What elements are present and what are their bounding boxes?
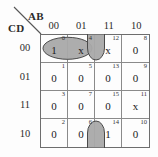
cell-index-0: 0 bbox=[62, 35, 65, 42]
kmap-grid: 0 1 4 x 12 x 8 0 1 0 5 0 13 0 9 0 bbox=[40, 34, 150, 148]
cell-value-15: 0 bbox=[95, 99, 121, 111]
kmap-cell-4[interactable]: 4 x bbox=[68, 35, 95, 63]
cell-index-4: 4 bbox=[89, 35, 92, 42]
row-header-10: 10 bbox=[13, 128, 37, 139]
row-header-11: 11 bbox=[13, 99, 37, 110]
cell-index-9: 9 bbox=[144, 63, 147, 70]
kmap-cell-0[interactable]: 0 1 bbox=[41, 35, 68, 63]
cell-index-7: 7 bbox=[89, 91, 92, 98]
cell-value-9: 0 bbox=[122, 71, 149, 83]
kmap-cell-14[interactable]: 14 1 bbox=[95, 119, 122, 147]
kmap-cell-11[interactable]: 11 x bbox=[122, 91, 149, 119]
kmap-cell-3[interactable]: 3 0 bbox=[41, 91, 68, 119]
cell-index-11: 11 bbox=[141, 91, 147, 98]
cell-index-8: 8 bbox=[144, 35, 147, 42]
row-header-01: 01 bbox=[13, 71, 37, 82]
kmap-cell-9[interactable]: 9 0 bbox=[122, 63, 149, 91]
col-header-00: 00 bbox=[40, 20, 68, 31]
cell-index-14: 14 bbox=[113, 119, 120, 126]
kmap-cell-7[interactable]: 7 0 bbox=[68, 91, 95, 119]
cell-index-2: 2 bbox=[62, 119, 65, 126]
cell-value-2: 0 bbox=[41, 128, 67, 140]
row-header-00: 00 bbox=[13, 42, 37, 53]
col-header-11: 11 bbox=[95, 20, 123, 31]
kmap-cell-13[interactable]: 13 0 bbox=[95, 63, 122, 91]
cell-index-12: 12 bbox=[113, 35, 120, 42]
cell-value-11: x bbox=[122, 99, 149, 111]
col-header-01: 01 bbox=[68, 20, 96, 31]
kmap-cell-10[interactable]: 10 0 bbox=[122, 119, 149, 147]
cell-value-8: 0 bbox=[122, 43, 149, 55]
kmap-cell-15[interactable]: 15 0 bbox=[95, 91, 122, 119]
cell-value-3: 0 bbox=[41, 99, 67, 111]
cell-value-0: 1 bbox=[41, 43, 67, 55]
cell-value-6: 0 bbox=[68, 128, 94, 140]
kmap-cell-1[interactable]: 1 0 bbox=[41, 63, 68, 91]
kmap-cell-6[interactable]: 6 0 bbox=[68, 119, 95, 147]
cell-index-5: 5 bbox=[89, 63, 92, 70]
kmap-cell-12[interactable]: 12 x bbox=[95, 35, 122, 63]
cell-index-15: 15 bbox=[113, 91, 120, 98]
cell-index-3: 3 bbox=[62, 91, 65, 98]
col-header-10: 10 bbox=[123, 20, 151, 31]
kmap-cell-2[interactable]: 2 0 bbox=[41, 119, 68, 147]
cell-value-5: 0 bbox=[68, 71, 94, 83]
kmap-cell-5[interactable]: 5 0 bbox=[68, 63, 95, 91]
cell-value-13: 0 bbox=[95, 71, 121, 83]
cell-index-10: 10 bbox=[141, 119, 148, 126]
cell-value-1: 0 bbox=[41, 71, 67, 83]
side-variables-label: CD bbox=[8, 22, 24, 34]
cell-value-4: x bbox=[68, 43, 94, 55]
kmap-cell-8[interactable]: 8 0 bbox=[122, 35, 149, 63]
cell-index-6: 6 bbox=[89, 119, 92, 126]
cell-value-10: 0 bbox=[122, 128, 149, 140]
cell-index-13: 13 bbox=[113, 63, 120, 70]
cell-value-14: 1 bbox=[95, 128, 121, 140]
cell-value-12: x bbox=[95, 43, 121, 55]
cell-value-7: 0 bbox=[68, 99, 94, 111]
karnaugh-map-diagram: AB CD 00 01 11 10 00 01 11 10 0 1 4 x 12… bbox=[0, 0, 158, 157]
cell-index-1: 1 bbox=[62, 63, 65, 70]
